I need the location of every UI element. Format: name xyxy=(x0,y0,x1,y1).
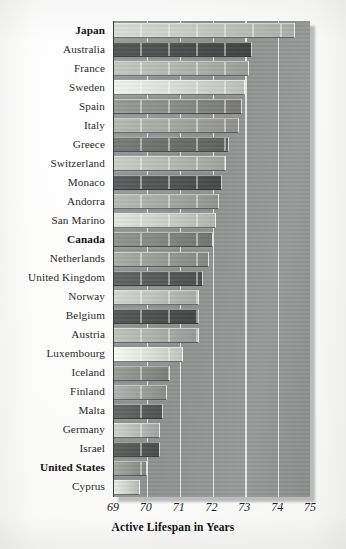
bar-row xyxy=(114,213,310,228)
bar-row xyxy=(114,442,310,457)
x-tick-label-75: 75 xyxy=(295,500,325,515)
category-label-belgium: Belgium xyxy=(0,309,105,322)
bar-row xyxy=(114,366,310,381)
x-tick-label-74: 74 xyxy=(262,500,292,515)
category-label-united-kingdom: United Kingdom xyxy=(0,271,105,284)
bar-andorra xyxy=(114,194,219,209)
category-label-iceland: Iceland xyxy=(0,366,105,379)
bar-luxembourg xyxy=(114,347,183,362)
bar-san-marino xyxy=(114,213,216,228)
bar-iceland xyxy=(114,366,170,381)
bar-row xyxy=(114,385,310,400)
category-label-greece: Greece xyxy=(0,138,105,151)
bar-row xyxy=(114,461,310,476)
x-tick-label-70: 70 xyxy=(131,500,161,515)
category-label-austria: Austria xyxy=(0,328,105,341)
plot-area xyxy=(113,21,310,497)
bar-row xyxy=(114,309,310,324)
bar-norway xyxy=(114,290,199,305)
bar-monaco xyxy=(114,175,222,190)
bar-germany xyxy=(114,423,160,438)
bar-row xyxy=(114,80,310,95)
bar-sweden xyxy=(114,80,245,95)
x-tick-label-72: 72 xyxy=(197,500,227,515)
bar-australia xyxy=(114,42,252,57)
bar-row xyxy=(114,328,310,343)
bar-row xyxy=(114,175,310,190)
bar-row xyxy=(114,118,310,133)
bar-row xyxy=(114,194,310,209)
category-label-luxembourg: Luxembourg xyxy=(0,347,105,360)
bar-italy xyxy=(114,118,239,133)
bar-japan xyxy=(114,23,295,38)
category-label-united-states: United States xyxy=(0,461,105,474)
bar-israel xyxy=(114,442,160,457)
bar-row xyxy=(114,99,310,114)
bar-row xyxy=(114,137,310,152)
bar-row xyxy=(114,252,310,267)
category-label-germany: Germany xyxy=(0,423,105,436)
bar-row xyxy=(114,423,310,438)
bar-switzerland xyxy=(114,156,226,171)
bar-canada xyxy=(114,232,213,247)
bar-greece xyxy=(114,137,229,152)
bar-finland xyxy=(114,385,167,400)
bar-row xyxy=(114,232,310,247)
bar-austria xyxy=(114,328,199,343)
bar-row xyxy=(114,61,310,76)
bar-malta xyxy=(114,404,163,419)
bar-united-kingdom xyxy=(114,271,203,286)
x-tick-label-69: 69 xyxy=(98,500,128,515)
bar-spain xyxy=(114,99,242,114)
x-axis-title: Active Lifespan in Years xyxy=(0,521,346,533)
value-axis-ticks: 69707172737475 xyxy=(0,500,346,518)
category-label-italy: Italy xyxy=(0,119,105,132)
bar-row xyxy=(114,404,310,419)
category-label-andorra: Andorra xyxy=(0,195,105,208)
category-label-switzerland: Switzerland xyxy=(0,157,105,170)
category-label-spain: Spain xyxy=(0,100,105,113)
category-label-australia: Australia xyxy=(0,43,105,56)
category-label-cyprus: Cyprus xyxy=(0,480,105,493)
bar-row xyxy=(114,271,310,286)
bar-belgium xyxy=(114,309,199,324)
category-label-san-marino: San Marino xyxy=(0,214,105,227)
bar-row xyxy=(114,290,310,305)
category-label-malta: Malta xyxy=(0,404,105,417)
category-label-japan: Japan xyxy=(0,24,105,37)
chart-figure: JapanAustraliaFranceSwedenSpainItalyGree… xyxy=(0,0,346,549)
category-label-netherlands: Netherlands xyxy=(0,252,105,265)
bar-row xyxy=(114,23,310,38)
bar-france xyxy=(114,61,249,76)
category-label-monaco: Monaco xyxy=(0,176,105,189)
x-tick-label-71: 71 xyxy=(164,500,194,515)
bar-row xyxy=(114,156,310,171)
category-axis-labels: JapanAustraliaFranceSwedenSpainItalyGree… xyxy=(0,21,109,497)
category-label-norway: Norway xyxy=(0,290,105,303)
bar-row xyxy=(114,347,310,362)
category-label-israel: Israel xyxy=(0,442,105,455)
category-label-sweden: Sweden xyxy=(0,81,105,94)
x-tick-label-73: 73 xyxy=(229,500,259,515)
bar-united-states xyxy=(114,461,147,476)
category-label-canada: Canada xyxy=(0,233,105,246)
category-label-france: France xyxy=(0,62,105,75)
category-label-finland: Finland xyxy=(0,385,105,398)
bar-row xyxy=(114,480,310,495)
bar-netherlands xyxy=(114,252,209,267)
bar-row xyxy=(114,42,310,57)
bar-cyprus xyxy=(114,480,140,495)
